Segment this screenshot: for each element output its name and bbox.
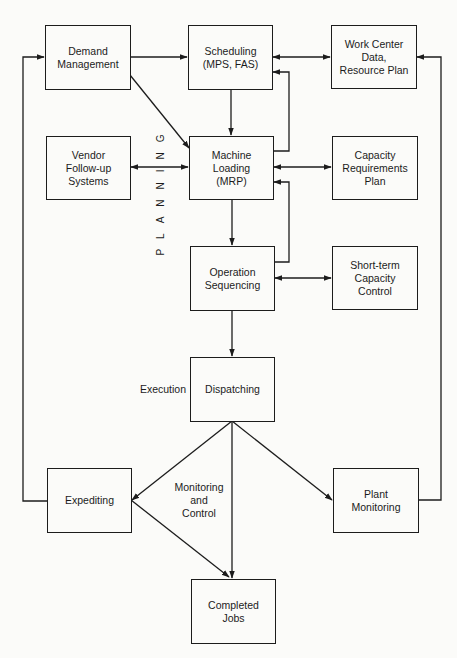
edge-expediting-loop-demand <box>23 57 47 501</box>
node-expediting: Expediting <box>47 468 132 533</box>
node-short-term-capacity: Short-term Capacity Control <box>332 246 418 310</box>
edge-dispatching-to-plant <box>232 421 332 500</box>
label-planning: PLANNING <box>155 124 166 255</box>
node-work-center: Work Center Data, Resource Plan <box>331 25 417 89</box>
edge-plant-loop-workcenter <box>417 57 441 500</box>
node-machine-loading: Machine Loading (MRP) <box>189 136 274 200</box>
flow-diagram: Demand Management Scheduling (MPS, FAS) … <box>0 0 457 658</box>
edge-opseq-feedback-mrp <box>274 182 289 262</box>
edge-mrp-feedback-scheduling <box>273 72 289 151</box>
node-dispatching: Dispatching <box>190 357 275 422</box>
node-scheduling: Scheduling (MPS, FAS) <box>188 25 273 90</box>
node-demand-management: Demand Management <box>45 25 131 90</box>
node-operation-sequencing: Operation Sequencing <box>190 246 275 311</box>
node-completed-jobs: Completed Jobs <box>191 579 276 644</box>
label-execution: Execution <box>138 383 188 396</box>
label-monitoring-control: Monitoring and Control <box>168 481 230 520</box>
node-capacity-requirements: Capacity Requirements Plan <box>332 136 418 200</box>
node-vendor-followup: Vendor Follow-up Systems <box>46 136 131 200</box>
node-plant-monitoring: Plant Monitoring <box>333 468 419 533</box>
connector-lines <box>0 0 457 658</box>
